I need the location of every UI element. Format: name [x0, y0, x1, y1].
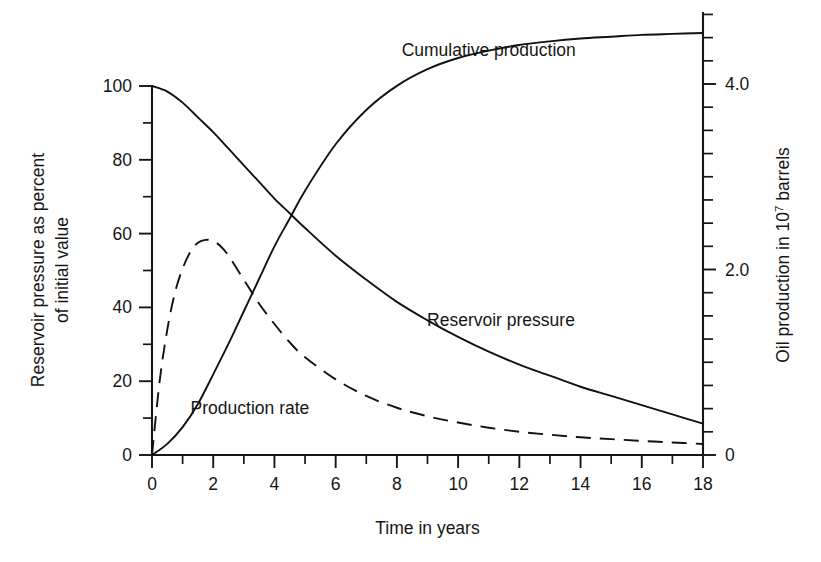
x-axis-tick-label: 14 — [571, 474, 591, 494]
left-axis-title: Reservoir pressure as percentof initial … — [28, 153, 72, 388]
left-axis-tick-label: 80 — [113, 150, 133, 170]
x-axis-tick-label: 16 — [632, 474, 651, 494]
left-axis-tick-label: 60 — [113, 224, 133, 244]
right-axis-title-base: Oil production in 10 — [773, 212, 793, 363]
x-axis-tick-label: 12 — [510, 474, 529, 494]
left-axis-tick-label: 0 — [122, 445, 132, 465]
chart-figure: 02040608010002468101214161802.04.0 Reser… — [0, 0, 821, 562]
x-axis-tick-label: 4 — [270, 474, 280, 494]
right-axis-title: Oil production in 107 barrels — [773, 147, 793, 363]
left-axis-title-line2: of initial value — [52, 217, 72, 323]
x-axis-tick-label: 2 — [208, 474, 218, 494]
x-axis-tick-label: 18 — [693, 474, 712, 494]
right-axis-title-text: Oil production in 107 barrels — [773, 147, 793, 363]
series-annotation-production-rate: Production rate — [191, 398, 310, 418]
right-axis-tick-label: 0 — [725, 445, 735, 465]
left-axis-title-line1: Reservoir pressure as percent — [28, 153, 48, 388]
labels-group: Reservoir pressureCumulative productionP… — [28, 40, 793, 538]
axes-group: 02040608010002468101214161802.04.0 — [103, 13, 750, 494]
left-axis-tick-label: 20 — [113, 371, 133, 391]
x-axis-title: Time in years — [375, 518, 480, 538]
right-axis-tick-label: 2.0 — [725, 260, 750, 280]
series-curve-production-rate — [152, 240, 703, 455]
right-axis-tick-label: 4.0 — [725, 74, 750, 94]
right-axis-title-tail: barrels — [773, 147, 793, 206]
left-axis-tick-label: 100 — [103, 76, 132, 96]
chart-svg: 02040608010002468101214161802.04.0 Reser… — [0, 0, 821, 562]
series-curve-cumulative-production — [152, 33, 703, 455]
x-axis-tick-label: 6 — [331, 474, 341, 494]
curves-group — [152, 33, 703, 455]
x-axis-tick-label: 10 — [448, 474, 468, 494]
x-axis-tick-label: 8 — [392, 474, 402, 494]
x-axis-tick-label: 0 — [147, 474, 157, 494]
series-annotation-reservoir-pressure: Reservoir pressure — [427, 310, 575, 330]
series-annotation-cumulative-production: Cumulative production — [402, 40, 576, 60]
series-curve-reservoir-pressure — [152, 86, 703, 424]
left-axis-tick-label: 40 — [113, 297, 133, 317]
